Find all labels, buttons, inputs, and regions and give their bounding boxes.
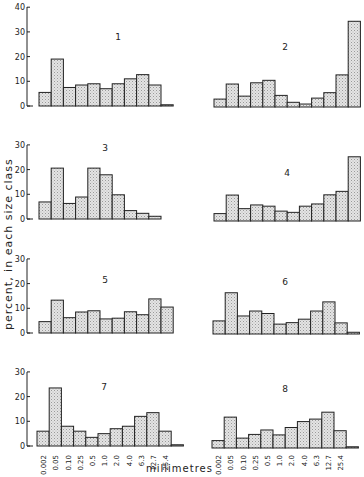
- histogram-bar: [149, 299, 161, 333]
- x-tick-label: 0.05: [52, 455, 60, 471]
- y-tick-label: 20: [15, 393, 25, 402]
- histogram-bar: [297, 422, 309, 448]
- y-tick-label: 10: [15, 417, 25, 426]
- histogram-bar: [287, 212, 299, 221]
- panel-2: 2: [214, 21, 360, 107]
- y-tick-label: 20: [15, 280, 25, 289]
- y-tick-label: 30: [15, 141, 25, 150]
- y-tick-label: 30: [15, 255, 25, 264]
- histogram-bar: [273, 435, 285, 448]
- histogram-figure: 010203040120102030340102030560102030780.…: [0, 0, 364, 477]
- histogram-bar: [322, 412, 334, 448]
- x-axis-label: millimetres: [146, 463, 213, 474]
- histogram-bar: [86, 437, 98, 446]
- x-tick-label: 4.0: [126, 455, 134, 466]
- histogram-bar: [161, 105, 173, 106]
- histogram-bar: [76, 312, 88, 333]
- histogram-bar: [122, 426, 134, 446]
- histogram-bar: [98, 434, 110, 446]
- panel-4: 4: [214, 157, 360, 221]
- histogram-bar: [149, 85, 161, 106]
- panel-7: 01020307: [15, 368, 184, 451]
- histogram-bar: [61, 426, 73, 446]
- x-tick-label: 0.5: [264, 455, 272, 466]
- histogram-bar: [149, 216, 161, 219]
- histogram-bar: [63, 318, 75, 333]
- histogram-bar: [51, 59, 63, 106]
- y-tick-label: 20: [15, 53, 25, 62]
- histogram-bar: [237, 316, 249, 334]
- histogram-bar: [159, 431, 171, 446]
- histogram-bar: [323, 302, 335, 334]
- histogram-bar: [88, 84, 100, 106]
- y-tick-label: 0: [20, 329, 25, 338]
- x-tick-label: 0.5: [89, 455, 97, 466]
- panel-6: 6: [213, 277, 359, 334]
- histogram-bar: [226, 84, 238, 107]
- histogram-bar: [225, 293, 237, 334]
- histogram-bar: [238, 209, 250, 221]
- histogram-bar: [298, 319, 310, 334]
- x-tick-label: 1.0: [101, 455, 109, 466]
- histogram-bar: [263, 206, 275, 221]
- panel-5: 01020305: [15, 255, 173, 338]
- histogram-bar: [110, 429, 122, 446]
- histogram-bar: [124, 79, 136, 106]
- histogram-bar: [346, 447, 358, 448]
- panel-number: 2: [282, 42, 288, 52]
- histogram-bar: [236, 438, 248, 448]
- histogram-bar: [251, 205, 263, 221]
- y-tick-label: 10: [15, 77, 25, 86]
- histogram-bar: [74, 431, 86, 446]
- histogram-bar: [348, 21, 360, 107]
- histogram-bar: [287, 102, 299, 107]
- histogram-bar: [112, 84, 124, 106]
- histogram-bar: [275, 95, 287, 107]
- panel-number: 7: [101, 382, 107, 392]
- histogram-bar: [212, 441, 224, 448]
- x-tick-label: 2.0: [288, 455, 296, 466]
- panel-number: 6: [282, 277, 288, 287]
- x-tick-label: 12.7: [325, 455, 333, 471]
- histogram-bar: [76, 197, 88, 219]
- histogram-bar: [274, 324, 286, 334]
- histogram-bar: [285, 427, 297, 448]
- histogram-bar: [214, 99, 226, 107]
- histogram-bar: [112, 318, 124, 333]
- y-tick-label: 10: [15, 304, 25, 313]
- panel-number: 8: [282, 384, 288, 394]
- x-tick-label: 4.0: [301, 455, 309, 466]
- histogram-bar: [312, 98, 324, 107]
- histogram-bar: [51, 300, 63, 333]
- histogram-bar: [124, 211, 136, 219]
- panel-3: 01020303: [15, 141, 161, 224]
- histogram-bar: [49, 388, 61, 446]
- histogram-bar: [249, 434, 261, 448]
- histogram-bar: [37, 431, 49, 446]
- y-tick-label: 30: [15, 368, 25, 377]
- x-tick-label: 0.10: [240, 455, 248, 471]
- histogram-bar: [137, 315, 149, 333]
- histogram-bar: [336, 75, 348, 107]
- histogram-bar: [238, 96, 250, 107]
- y-tick-label: 0: [20, 102, 25, 111]
- x-tick-label: 0.05: [227, 455, 235, 471]
- histogram-bar: [324, 93, 336, 107]
- histogram-bar: [39, 92, 51, 106]
- histogram-bar: [275, 211, 287, 221]
- histogram-bar: [214, 214, 226, 221]
- x-tick-label: 25.4: [337, 454, 345, 470]
- y-tick-label: 0: [20, 442, 25, 451]
- histogram-bar: [39, 202, 51, 219]
- x-tick-label: 6.3: [138, 455, 146, 466]
- histogram-bar: [335, 323, 347, 334]
- panel-number: 1: [115, 32, 121, 42]
- histogram-bar: [112, 195, 124, 219]
- histogram-bar: [135, 416, 147, 446]
- x-tick-label: 2.0: [113, 455, 121, 466]
- x-tick-label: 0.10: [65, 455, 73, 471]
- x-tick-label: 6.3: [313, 455, 321, 466]
- histogram-bar: [88, 311, 100, 333]
- histogram-bar: [161, 307, 173, 333]
- histogram-bar: [261, 430, 273, 448]
